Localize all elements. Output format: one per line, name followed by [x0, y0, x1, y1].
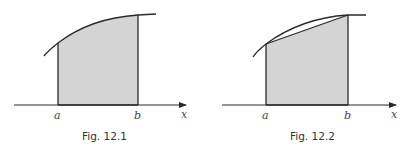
- trapezium-area: [266, 15, 348, 105]
- label-x: x: [181, 108, 188, 121]
- shaded-area: [58, 15, 138, 105]
- label-x: x: [391, 108, 398, 121]
- label-b: b: [134, 109, 141, 122]
- diagram-canvas: a b x Fig. 12.1 a b x Fig. 12.2: [0, 0, 406, 152]
- caption: Fig. 12.1: [82, 130, 127, 142]
- label-b: b: [344, 109, 351, 122]
- figure-12-2: a b x Fig. 12.2: [222, 15, 398, 142]
- label-a: a: [262, 109, 269, 122]
- caption: Fig. 12.2: [290, 130, 335, 142]
- label-a: a: [54, 109, 61, 122]
- figure-12-1: a b x Fig. 12.1: [14, 14, 188, 142]
